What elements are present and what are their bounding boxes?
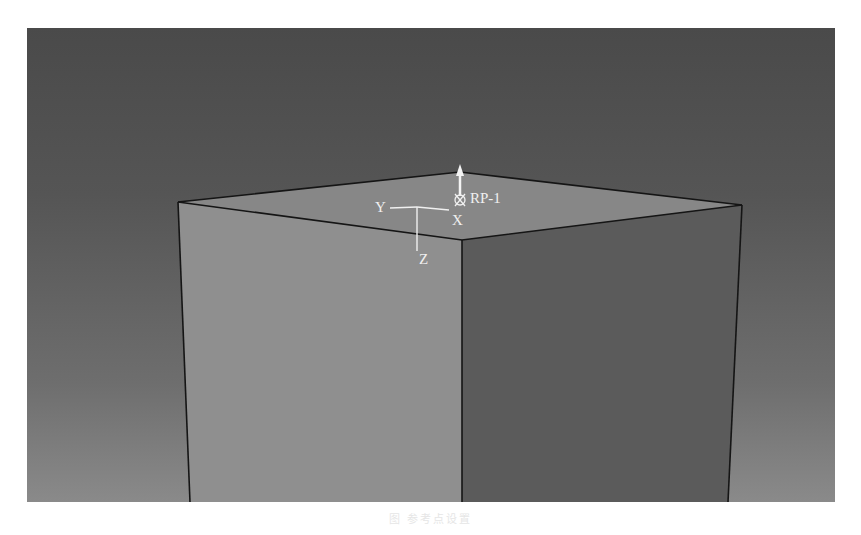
reference-point-label: RP-1 <box>470 190 501 206</box>
right-face[interactable] <box>462 205 742 502</box>
triad-y-label: Y <box>375 199 386 215</box>
left-face[interactable] <box>178 202 462 502</box>
model-canvas[interactable]: Y X Z RP-1 <box>27 28 835 502</box>
triad-y-axis <box>390 207 417 208</box>
triad-z-label: Z <box>419 251 428 267</box>
figure-caption: 图 参考点设置 <box>0 510 861 526</box>
model-viewport[interactable]: Y X Z RP-1 <box>27 28 835 502</box>
triad-x-label: X <box>452 212 463 228</box>
